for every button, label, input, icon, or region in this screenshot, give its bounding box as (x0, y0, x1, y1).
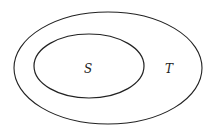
venn-diagram: S T (0, 0, 216, 129)
set-t-ellipse (14, 12, 202, 124)
set-t-label: T (165, 62, 174, 76)
set-s-label: S (84, 62, 92, 76)
